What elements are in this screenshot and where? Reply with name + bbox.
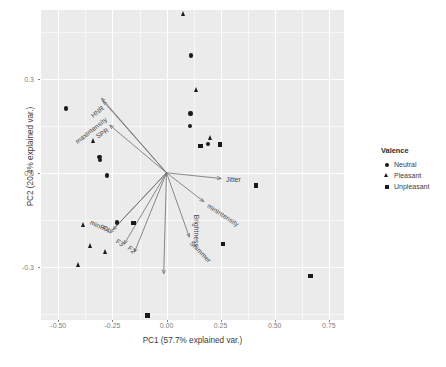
plot-panel: maxIntensityHNRSPRminF0F4F3F2JitterminIn… (41, 10, 344, 320)
loading-arrow (167, 173, 222, 179)
y-tick-label: -0.3 (8, 263, 34, 270)
x-tick-label: 0.00 (160, 322, 174, 329)
legend-item-label: Pleasant (394, 172, 421, 179)
x-tick-label: 0.75 (322, 322, 336, 329)
legend-item-neutral[interactable]: Neutral (381, 159, 443, 170)
legend-item-label: Neutral (394, 161, 417, 168)
x-tick-label: -0.25 (104, 322, 120, 329)
y-tick-mark (38, 79, 40, 80)
loading-arrow (167, 173, 204, 202)
loading-arrow (124, 173, 166, 244)
loading-arrow (113, 173, 167, 230)
legend-item-label: Unpleasant (394, 183, 429, 190)
x-tick-label: 0.25 (214, 322, 228, 329)
legend: Valence NeutralPleasantUnpleasant (381, 146, 443, 192)
loading-arrow (103, 101, 166, 172)
loading-arrow (135, 173, 167, 252)
loading-label: Jitter (226, 176, 241, 183)
legend-key-square-icon (381, 181, 392, 192)
loading-arrow (164, 173, 167, 274)
pca-biplot-figure: maxIntensityHNRSPRminF0F4F3F2JitterminIn… (0, 0, 446, 367)
y-tick-mark (38, 173, 40, 174)
legend-key-circle-icon (381, 159, 392, 170)
legend-title: Valence (381, 146, 443, 155)
x-tick-label: -0.50 (50, 322, 66, 329)
y-tick-mark (38, 267, 40, 268)
loading-label: Brightness (192, 214, 199, 246)
legend-key-triangle-icon (381, 170, 392, 181)
y-axis-label: PC2 (20.4% explained var.) (26, 67, 35, 247)
x-tick-label: 0.50 (268, 322, 282, 329)
x-axis-label: PC1 (57.7% explained var.) (41, 336, 344, 345)
loading-arrow (110, 125, 167, 173)
legend-item-unpleasant[interactable]: Unpleasant (381, 181, 443, 192)
loading-arrow (167, 173, 190, 237)
legend-item-pleasant[interactable]: Pleasant (381, 170, 443, 181)
legend-items: NeutralPleasantUnpleasant (381, 159, 443, 192)
